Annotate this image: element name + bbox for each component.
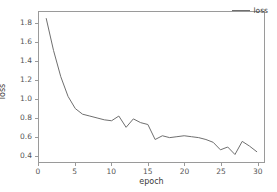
x-tick-mark <box>258 163 259 166</box>
x-axis-label: epoch <box>38 177 265 186</box>
x-tick-label: 0 <box>36 168 41 176</box>
x-tick-mark <box>75 163 76 166</box>
y-tick-label: 0.8 <box>6 115 32 123</box>
y-tick-label: 0.4 <box>6 153 32 161</box>
y-tick-label: 0.6 <box>6 134 32 142</box>
x-tick-mark <box>148 163 149 166</box>
x-tick-label: 15 <box>143 168 153 176</box>
data-line-svg <box>39 12 264 162</box>
x-tick-label: 20 <box>180 168 190 176</box>
x-tick-mark <box>221 163 222 166</box>
x-tick-label: 30 <box>253 168 263 176</box>
x-tick-label: 10 <box>106 168 116 176</box>
plot-area <box>38 11 265 163</box>
legend-line-sample-icon <box>232 10 250 11</box>
loss-series-line <box>46 19 256 155</box>
y-tick-label: 1.8 <box>6 20 32 28</box>
y-tick-label: 1.6 <box>6 39 32 47</box>
y-tick-label: 1.0 <box>6 96 32 104</box>
loss-vs-epoch-chart: loss 0.40.60.81.01.21.41.61.8 0510152025… <box>0 0 277 192</box>
x-tick-mark <box>38 163 39 166</box>
x-tick-label: 5 <box>72 168 77 176</box>
chart-legend: loss <box>229 5 272 17</box>
legend-entry-label: loss <box>254 7 269 15</box>
x-tick-mark <box>111 163 112 166</box>
y-tick-label: 1.4 <box>6 58 32 66</box>
x-tick-mark <box>184 163 185 166</box>
x-tick-label: 25 <box>216 168 226 176</box>
y-tick-label: 1.2 <box>6 77 32 85</box>
